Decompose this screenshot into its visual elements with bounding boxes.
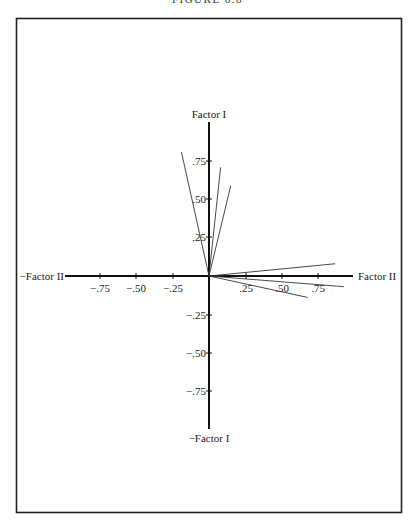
y-tick-label: −.50 bbox=[186, 347, 206, 359]
y-axis-label-negative: −Factor I bbox=[189, 432, 230, 444]
loading-vector bbox=[209, 264, 335, 276]
y-axis-label-positive: Factor I bbox=[192, 108, 227, 120]
x-tick-label: −.50 bbox=[126, 282, 146, 294]
x-tick-label: −.75 bbox=[90, 282, 110, 294]
x-tick-label: .75 bbox=[311, 282, 325, 294]
y-tick-label: −.75 bbox=[186, 385, 206, 397]
y-tick-label: .50 bbox=[192, 193, 206, 205]
loading-vector bbox=[181, 152, 209, 276]
loading-vector bbox=[209, 186, 231, 276]
x-axis-label-negative: −Factor II bbox=[20, 270, 65, 282]
factor-plot: −.75 −.50 −.25 .25 .50 .75 .75 .50 .25 −… bbox=[0, 0, 415, 528]
loading-vector bbox=[209, 167, 221, 276]
loading-vector bbox=[209, 276, 308, 297]
y-tick-label: −.25 bbox=[186, 309, 206, 321]
x-tick-label: −.25 bbox=[163, 282, 183, 294]
x-axis-label-positive: Factor II bbox=[358, 270, 397, 282]
y-tick-label: .75 bbox=[192, 155, 206, 167]
